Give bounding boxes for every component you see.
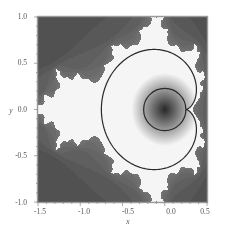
y-axis bbox=[34, 17, 38, 202]
x-tick-label: 0.5 bbox=[200, 207, 210, 216]
y-tick-label: -0.5 bbox=[15, 151, 27, 160]
x-tick-label: 0.0 bbox=[166, 207, 176, 216]
mandelbrot-figure: 1.0 0.5 0.0 -0.5 -1.0 -1.5 -1.0 -0.5 0.0… bbox=[0, 0, 230, 231]
x-tick-label: -1.0 bbox=[78, 207, 90, 216]
y-tick-label: 1.0 bbox=[18, 12, 28, 21]
y-tick-label: -1.0 bbox=[15, 198, 27, 207]
inner-circle-curve bbox=[144, 88, 186, 130]
y-tick-label: 0.5 bbox=[18, 58, 28, 67]
plot-frame bbox=[38, 17, 208, 203]
x-axis bbox=[38, 202, 207, 206]
x-axis-label: x bbox=[125, 217, 130, 226]
outer-cardioid-curve bbox=[101, 49, 196, 169]
y-tick-label: 0.0 bbox=[18, 105, 28, 114]
chart-overlay: 1.0 0.5 0.0 -0.5 -1.0 -1.5 -1.0 -0.5 0.0… bbox=[0, 0, 230, 231]
x-tick-label: -0.5 bbox=[122, 207, 134, 216]
x-tick-label: -1.5 bbox=[34, 207, 46, 216]
y-axis-label: y bbox=[8, 106, 13, 115]
